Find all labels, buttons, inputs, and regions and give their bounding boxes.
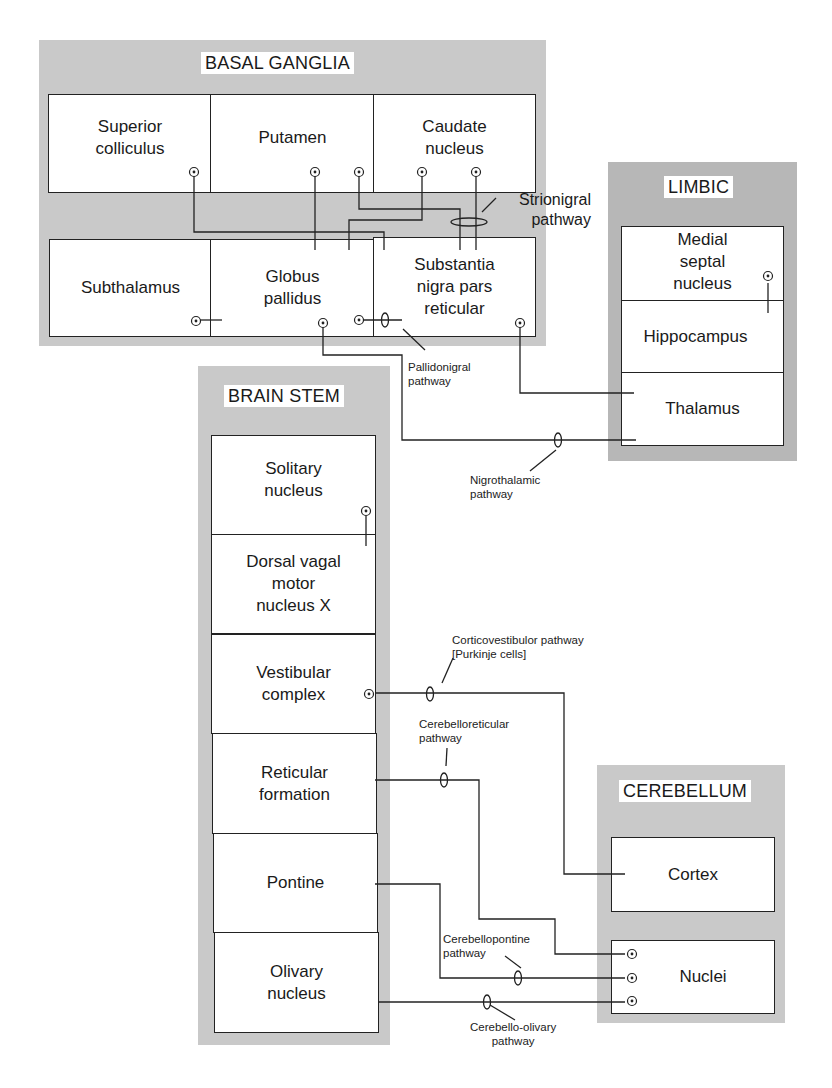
cell-vestibular-complex: Vestibular complex <box>211 634 376 734</box>
cell-substantia-nigra: Substantia nigra pars reticular <box>373 237 536 337</box>
cell-hippocampus: Hippocampus <box>621 300 784 374</box>
cell-globus-pallidus: Globus pallidus <box>210 239 375 337</box>
label-pallidonigral-pathway: Pallidonigral pathway <box>408 360 471 388</box>
cell-caudate-nucleus: Caudate nucleus <box>373 94 536 193</box>
label-cerebelloreticular-pathway: Cerebelloreticular pathway <box>419 717 509 745</box>
limbic-title: LIMBIC <box>664 176 733 198</box>
label-cerebello-olivary-pathway: Cerebello-olivary pathway <box>470 1020 556 1048</box>
label-cerebellopontine-pathway: Cerebellopontine pathway <box>443 932 530 960</box>
cell-reticular-formation: Reticular formation <box>212 733 377 834</box>
cell-cortex: Cortex <box>611 837 775 912</box>
cell-olivary-nucleus: Olivary nucleus <box>214 932 379 1033</box>
cell-superior-colliculus: Superior colliculus <box>48 94 212 193</box>
basal-ganglia-title: BASAL GANGLIA <box>201 52 354 74</box>
cell-nuclei: Nuclei <box>611 940 775 1014</box>
cell-solitary-nucleus: Solitary nucleus <box>211 435 376 535</box>
cell-thalamus: Thalamus <box>621 372 784 446</box>
label-corticovestibulor-pathway: Corticovestibulor pathway [Purkinje cell… <box>452 633 584 661</box>
cell-putamen: Putamen <box>210 94 375 193</box>
cell-pontine: Pontine <box>213 833 378 933</box>
cell-dorsal-vagal-motor-nucleus: Dorsal vagal motor nucleus X <box>211 534 376 634</box>
brain-stem-title: BRAIN STEM <box>224 385 344 407</box>
cell-subthalamus: Subthalamus <box>49 239 212 337</box>
cerebellum-title: CEREBELLUM <box>619 780 751 802</box>
cell-medial-septal-nucleus: Medial septal nucleus <box>621 226 784 302</box>
label-nigrothalamic-pathway: Nigrothalamic pathway <box>470 473 540 501</box>
label-strionigral-pathway: Strionigral pathway <box>497 190 591 230</box>
